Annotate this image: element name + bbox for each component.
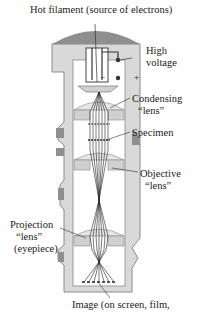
label-objective-1: Objective [140, 168, 181, 179]
top-cap [52, 31, 140, 44]
label-condensing-2: “lens” [138, 105, 164, 116]
label-projection-3: (eyepiece) [14, 243, 58, 254]
label-projection-2: “lens” [16, 231, 42, 242]
label-projection-1: Projection [10, 219, 53, 230]
label-condensing-1: Condensing [132, 93, 182, 104]
label-filament: Hot filament (source of electrons) [30, 4, 172, 15]
sign-plus: + [134, 72, 139, 83]
label-objective-2: “lens” [145, 180, 171, 191]
label-high-voltage-2: voltage [146, 57, 177, 68]
label-high-voltage-1: High [146, 45, 167, 56]
microscope-diagram [0, 0, 212, 314]
label-specimen: Specimen [132, 127, 173, 138]
sign-minus: − [100, 72, 105, 83]
label-image: Image (on screen, film, [72, 299, 170, 310]
